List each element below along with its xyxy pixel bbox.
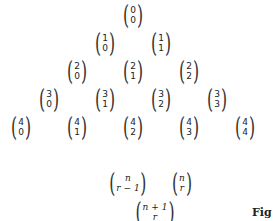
- binom-bottom: 0: [18, 127, 24, 137]
- binom-top: 4: [242, 117, 248, 127]
- binom-n-r-minus-1: ( n r − 1 ): [107, 170, 149, 196]
- binom-bottom: 3: [214, 99, 220, 109]
- left-paren: (: [179, 58, 185, 84]
- right-paren: ): [109, 86, 115, 112]
- binom-n-r: ( n r ): [170, 170, 194, 196]
- right-paren: ): [221, 86, 227, 112]
- right-paren: ): [137, 58, 143, 84]
- binom-top: 3: [214, 89, 220, 99]
- binom-bottom: 2: [186, 71, 192, 81]
- binomial-coefficient: (10): [93, 30, 117, 56]
- binom-bottom: r − 1: [116, 183, 139, 193]
- binom-top: 4: [130, 117, 136, 127]
- left-paren: (: [235, 114, 241, 140]
- left-paren: (: [151, 30, 157, 56]
- binomial-coefficient: (00): [121, 2, 145, 28]
- left-paren: (: [11, 114, 17, 140]
- right-paren: ): [81, 58, 87, 84]
- binom-n-plus-1-r: ( n + 1 r ): [133, 199, 176, 221]
- left-paren: (: [123, 2, 129, 28]
- right-paren: ): [81, 114, 87, 140]
- left-paren: (: [67, 114, 73, 140]
- right-paren: ): [193, 114, 199, 140]
- right-paren: ): [141, 170, 147, 196]
- left-paren: (: [123, 58, 129, 84]
- binomial-coefficient: (41): [65, 114, 89, 140]
- left-paren: (: [172, 170, 178, 196]
- binomial-coefficient: (31): [93, 86, 117, 112]
- left-paren: (: [109, 170, 115, 196]
- binomial-coefficient: (33): [205, 86, 229, 112]
- binomial-coefficient: (32): [149, 86, 173, 112]
- binom-top: 2: [186, 61, 192, 71]
- binom-top: 2: [74, 61, 80, 71]
- left-paren: (: [135, 199, 141, 221]
- binom-top: 1: [158, 33, 164, 43]
- right-paren: ): [109, 30, 115, 56]
- binom-top: 3: [46, 89, 52, 99]
- binom-top: 1: [102, 33, 108, 43]
- binomial-coefficient: (21): [121, 58, 145, 84]
- binomial-coefficient: (22): [177, 58, 201, 84]
- binom-bottom: 1: [130, 71, 136, 81]
- right-paren: ): [249, 114, 255, 140]
- binomial-coefficient: (20): [65, 58, 89, 84]
- right-paren: ): [137, 114, 143, 140]
- binomial-coefficient: (42): [121, 114, 145, 140]
- left-paren: (: [39, 86, 45, 112]
- binom-top: 3: [102, 89, 108, 99]
- right-paren: ): [165, 30, 171, 56]
- binom-bottom: 2: [130, 127, 136, 137]
- binom-bottom: 0: [46, 99, 52, 109]
- binom-bottom: 4: [242, 127, 248, 137]
- figure-caption: Fig: [252, 206, 272, 219]
- binomial-coefficient: (44): [233, 114, 257, 140]
- binom-bottom: 1: [158, 43, 164, 53]
- right-paren: ): [53, 86, 59, 112]
- binomial-coefficient: (40): [9, 114, 33, 140]
- left-paren: (: [151, 86, 157, 112]
- left-paren: (: [67, 58, 73, 84]
- binom-bottom: r: [180, 183, 184, 193]
- binom-bottom: 1: [102, 99, 108, 109]
- binom-bottom: 0: [74, 71, 80, 81]
- left-paren: (: [123, 114, 129, 140]
- binom-bottom: 1: [74, 127, 80, 137]
- binom-bottom: 0: [130, 15, 136, 25]
- binom-top: 4: [186, 117, 192, 127]
- binom-bottom: 3: [186, 127, 192, 137]
- binom-top: 4: [18, 117, 24, 127]
- binom-bottom: 2: [158, 99, 164, 109]
- binomial-coefficient: (43): [177, 114, 201, 140]
- binom-top: 4: [74, 117, 80, 127]
- binom-bottom: r: [153, 212, 157, 221]
- binom-top: 2: [130, 61, 136, 71]
- left-paren: (: [95, 30, 101, 56]
- binom-top: n: [179, 173, 185, 183]
- left-paren: (: [207, 86, 213, 112]
- binom-top: n: [125, 173, 131, 183]
- binom-top: 3: [158, 89, 164, 99]
- binom-bottom: 0: [102, 43, 108, 53]
- binom-top: n + 1: [143, 202, 168, 212]
- right-paren: ): [165, 86, 171, 112]
- right-paren: ): [186, 170, 192, 196]
- left-paren: (: [179, 114, 185, 140]
- binom-top: 0: [130, 5, 136, 15]
- right-paren: ): [193, 58, 199, 84]
- right-paren: ): [25, 114, 31, 140]
- right-paren: ): [137, 2, 143, 28]
- left-paren: (: [95, 86, 101, 112]
- binomial-coefficient: (30): [37, 86, 61, 112]
- right-paren: ): [168, 199, 174, 221]
- binomial-coefficient: (11): [149, 30, 173, 56]
